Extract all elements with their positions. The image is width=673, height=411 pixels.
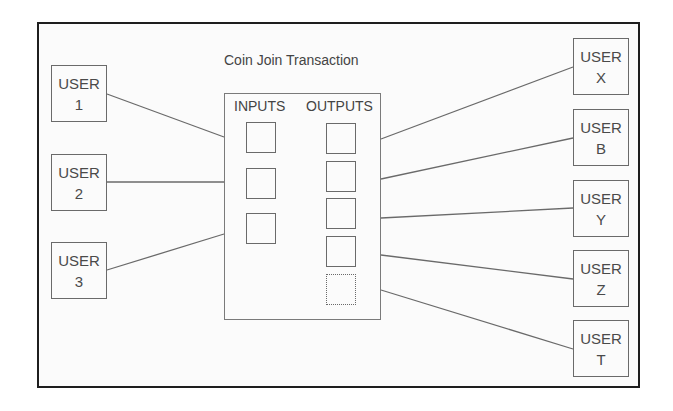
line-tx-to-userb xyxy=(381,138,573,179)
user-x-label: USER xyxy=(580,46,622,67)
line-user3-to-tx xyxy=(107,234,224,270)
user-1-box: USER 1 xyxy=(51,65,107,122)
inputs-label: INPUTS xyxy=(234,98,285,114)
user-3-box: USER 3 xyxy=(51,242,107,299)
user-3-label: USER xyxy=(58,250,100,271)
user-b-box: USER B xyxy=(573,109,629,166)
user-3-id: 3 xyxy=(75,271,83,292)
user-t-label: USER xyxy=(580,328,622,349)
user-x-box: USER X xyxy=(573,38,629,95)
diagram-title: Coin Join Transaction xyxy=(224,52,359,68)
line-tx-to-userx xyxy=(381,67,573,139)
user-t-box: USER T xyxy=(573,320,629,377)
user-b-id: B xyxy=(596,138,606,159)
user-1-label: USER xyxy=(58,73,100,94)
user-1-id: 1 xyxy=(75,94,83,115)
user-z-box: USER Z xyxy=(573,250,629,307)
user-t-id: T xyxy=(596,349,605,370)
line-tx-to-usert xyxy=(381,290,573,349)
user-2-id: 2 xyxy=(75,183,83,204)
user-b-label: USER xyxy=(580,117,622,138)
output-slot-2 xyxy=(326,161,356,192)
output-slot-3 xyxy=(326,198,356,229)
line-tx-to-userz xyxy=(381,255,573,279)
user-x-id: X xyxy=(596,67,606,88)
outputs-label: OUTPUTS xyxy=(306,98,373,114)
user-z-label: USER xyxy=(580,258,622,279)
output-slot-4 xyxy=(326,236,356,267)
line-tx-to-usery xyxy=(381,208,573,218)
input-slot-1 xyxy=(246,122,276,153)
user-2-label: USER xyxy=(58,162,100,183)
input-slot-2 xyxy=(246,168,276,199)
line-user1-to-tx xyxy=(107,94,224,137)
user-y-label: USER xyxy=(580,188,622,209)
output-slot-5 xyxy=(326,274,356,305)
user-z-id: Z xyxy=(596,279,605,300)
user-y-id: Y xyxy=(596,209,606,230)
output-slot-1 xyxy=(326,123,356,154)
input-slot-3 xyxy=(246,213,276,244)
user-2-box: USER 2 xyxy=(51,154,107,211)
user-y-box: USER Y xyxy=(573,180,629,237)
